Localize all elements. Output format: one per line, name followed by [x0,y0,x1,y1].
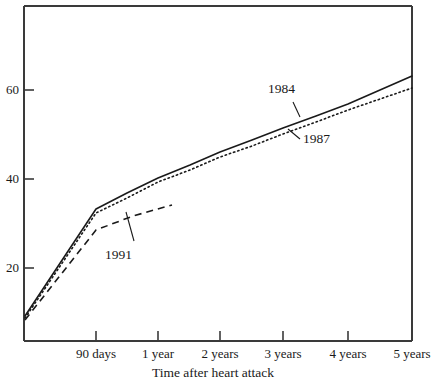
series-line-1987 [25,88,412,318]
y-tick-label-60: 60 [0,83,19,96]
series-line-1984 [25,76,412,316]
series-annotation-1991: 1991 [105,248,132,262]
y-tick-label-40: 40 [0,172,19,185]
leader-line-1991 [126,212,134,241]
y-axis-ticks [24,90,34,268]
x-axis-title: Time after heart attack [113,366,313,380]
annotation-leaders [126,102,300,241]
series-annotation-1984: 1984 [268,82,295,96]
y-tick-label-20: 20 [0,261,19,274]
leader-line-1987 [288,129,300,139]
x-tick-label-4-years: 4 years [311,347,385,360]
series-line-1991 [25,205,172,320]
x-tick-label-3-years: 3 years [246,347,320,360]
leader-line-1984 [293,102,300,117]
series-annotation-1987: 1987 [303,132,330,146]
axis-frame [24,6,412,341]
x-tick-label-5-years: 5 years [375,347,435,360]
x-axis-ticks [96,331,348,341]
